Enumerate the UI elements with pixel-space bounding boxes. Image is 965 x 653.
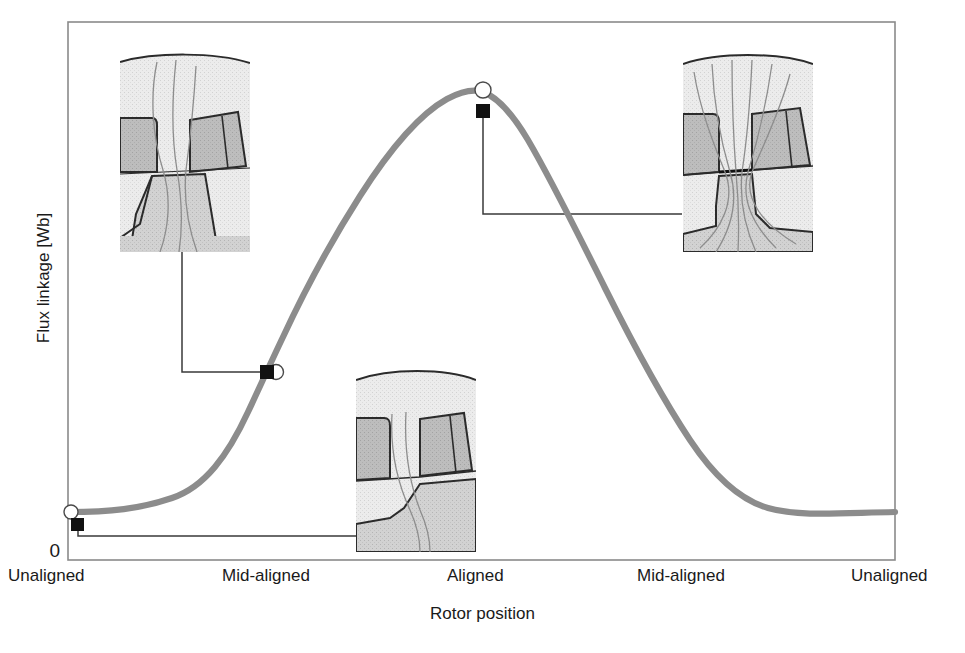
aligned-flux-inset — [683, 52, 813, 252]
leader-aligned — [483, 112, 682, 214]
marker-square-aligned — [476, 104, 490, 118]
chart-canvas — [0, 0, 965, 653]
leader-mid-aligned — [182, 252, 268, 372]
flux-linkage-chart: Flux linkage [Wb] Rotor position 0 Unali… — [0, 0, 965, 653]
marker-circle-aligned — [475, 82, 491, 98]
marker-square-mid-aligned — [260, 365, 274, 379]
unaligned-flux-inset — [356, 367, 476, 552]
leader-unaligned — [78, 527, 357, 536]
marker-circle-unaligned — [64, 505, 78, 519]
mid-aligned-flux-inset — [120, 52, 250, 252]
marker-square-unaligned — [71, 518, 84, 531]
